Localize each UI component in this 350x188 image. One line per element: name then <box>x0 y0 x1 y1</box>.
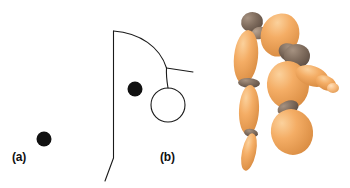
panel-b-label: (b) <box>160 151 175 163</box>
panel-a: (a) <box>0 0 78 188</box>
panel-c: (c) <box>208 0 350 188</box>
panel-a-label: (a) <box>12 151 26 163</box>
figure-root: (a) (b) (c) <box>0 0 350 188</box>
panel-b: (b) <box>78 0 208 188</box>
